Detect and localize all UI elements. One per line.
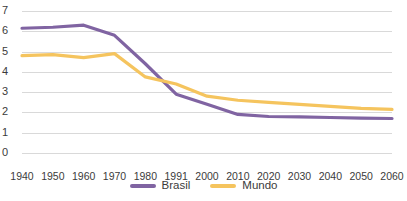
series-line-mundo	[22, 54, 392, 110]
series-lines	[22, 11, 392, 153]
y-axis-tick-label: 7	[0, 5, 8, 16]
legend-item-mundo[interactable]: Mundo	[210, 180, 277, 192]
legend-swatch-icon	[210, 184, 236, 188]
gridline	[22, 153, 392, 154]
legend-item-brasil[interactable]: Brasil	[130, 180, 191, 192]
y-axis-tick-label: 0	[0, 147, 8, 158]
y-axis-tick-label: 3	[0, 86, 8, 97]
y-axis-tick-label: 1	[0, 127, 8, 138]
series-line-brasil	[22, 25, 392, 118]
legend-label: Brasil	[162, 180, 191, 192]
plot-area: 01234567 1940195019601970198019912000201…	[22, 11, 392, 153]
y-axis-tick-label: 5	[0, 46, 8, 57]
line-chart: 01234567 1940195019601970198019912000201…	[0, 0, 407, 201]
chart-legend: BrasilMundo	[0, 180, 407, 192]
legend-label: Mundo	[242, 180, 277, 192]
legend-swatch-icon	[130, 184, 156, 188]
y-axis-tick-label: 4	[0, 66, 8, 77]
y-axis-tick-label: 2	[0, 106, 8, 117]
y-axis-tick-label: 6	[0, 25, 8, 36]
